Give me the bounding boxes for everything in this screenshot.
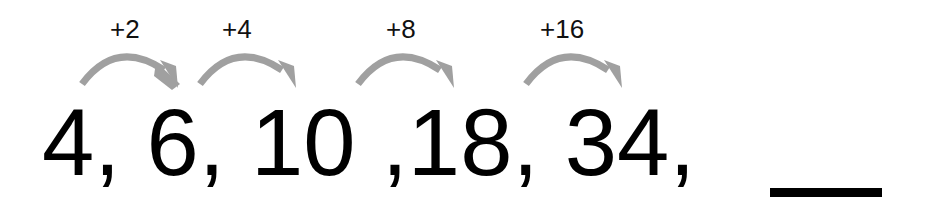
sequence-term: 10 [251, 96, 356, 190]
sequence-term: 4, [42, 96, 120, 190]
curved-arrow-icon [520, 44, 630, 94]
step-label-1: +2 [110, 14, 140, 45]
sequence-term: 6, [147, 96, 225, 190]
sequence-term: ,18, [382, 96, 539, 190]
curved-arrow-icon [352, 44, 462, 94]
step-label-2: +4 [222, 14, 252, 45]
curved-arrow-icon [76, 44, 186, 94]
step-label-3: +8 [386, 14, 416, 45]
step-label-4: +16 [540, 14, 584, 45]
sequence-term: 34, [565, 96, 696, 190]
answer-blank [770, 188, 882, 197]
curved-arrow-icon [194, 44, 304, 94]
number-sequence: 4, 6, 10 ,18, 34, [42, 96, 695, 190]
